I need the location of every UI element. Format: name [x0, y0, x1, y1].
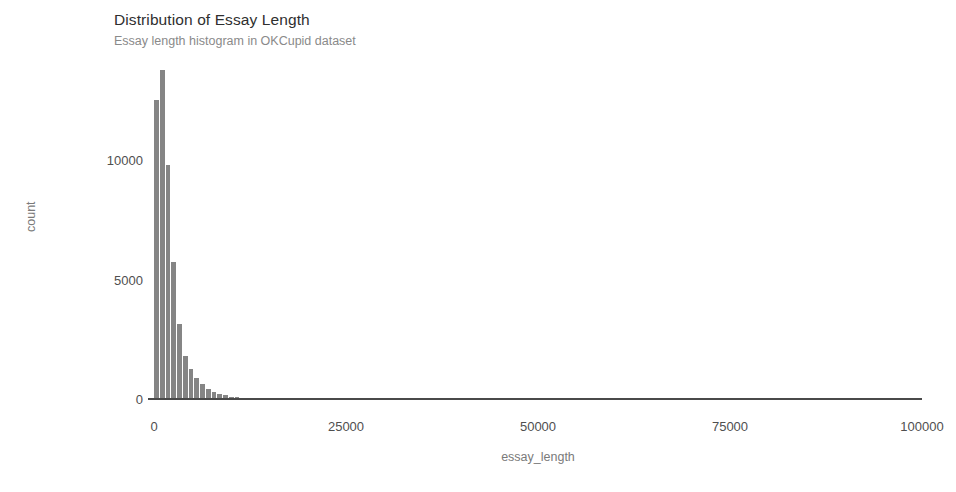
x-tick-label: 100000: [900, 419, 943, 434]
x-axis-title: essay_length: [154, 450, 922, 464]
y-tick-mark: [148, 398, 154, 399]
x-tick-label: 25000: [328, 419, 364, 434]
x-axis-ticks: 0250005000075000100000: [0, 0, 956, 492]
x-tick-label: 0: [150, 419, 157, 434]
x-tick-label: 50000: [520, 419, 556, 434]
x-tick-label: 75000: [712, 419, 748, 434]
y-axis-title: count: [24, 201, 38, 232]
chart-container: Distribution of Essay Length Essay lengt…: [0, 0, 956, 492]
